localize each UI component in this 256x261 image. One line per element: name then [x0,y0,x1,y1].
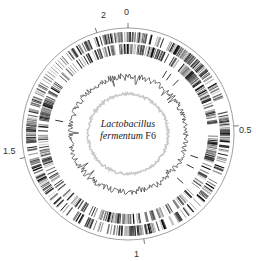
scale-label-1-5: 1.5 [3,146,16,156]
scale-label-0-5: 0.5 [239,125,252,135]
scale-label-0: 0 [124,7,129,17]
scale-label-1: 1 [134,249,139,259]
strain-name: F6 [145,130,156,141]
organism-title: Lactobacillus fermentum F6 [78,118,178,142]
scale-label-2: 2 [101,10,106,20]
species-name: fermentum [100,130,143,141]
genus-name: Lactobacillus [78,118,178,130]
